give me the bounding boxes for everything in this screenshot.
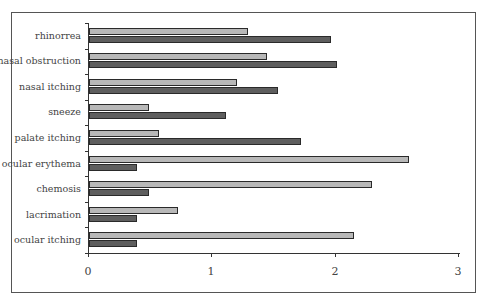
category-label: ocular itching bbox=[14, 234, 81, 245]
category-label: rhinorrea bbox=[35, 29, 81, 40]
category-label: ocular erythema bbox=[2, 157, 81, 168]
bar-series-dark bbox=[89, 61, 337, 68]
category-label: sneeze bbox=[48, 106, 81, 117]
bar-series-dark bbox=[89, 189, 149, 196]
y-tick bbox=[85, 49, 89, 50]
bar-series-light bbox=[89, 207, 178, 214]
bar-series-light bbox=[89, 181, 372, 188]
bar-series-dark bbox=[89, 36, 331, 43]
y-tick bbox=[85, 202, 89, 203]
x-tick-label: 1 bbox=[208, 265, 215, 278]
bar-series-dark bbox=[89, 215, 137, 222]
x-tick bbox=[335, 253, 336, 257]
bar-series-light bbox=[89, 79, 237, 86]
bar-series-light bbox=[89, 156, 409, 163]
x-axis bbox=[88, 253, 460, 254]
y-tick bbox=[85, 176, 89, 177]
y-tick bbox=[85, 151, 89, 152]
x-tick-label: 3 bbox=[455, 265, 462, 278]
y-tick bbox=[85, 23, 89, 24]
category-label: nasal obstruction bbox=[0, 55, 81, 66]
bar-series-light bbox=[89, 28, 248, 35]
bar-series-dark bbox=[89, 112, 226, 119]
x-tick bbox=[458, 253, 459, 257]
category-label: nasal itching bbox=[19, 80, 81, 91]
bar-series-light bbox=[89, 130, 159, 137]
bar-series-light bbox=[89, 53, 267, 60]
category-label: palate itching bbox=[15, 132, 81, 143]
bar-series-dark bbox=[89, 164, 137, 171]
bar-series-dark bbox=[89, 240, 137, 247]
y-tick bbox=[85, 100, 89, 101]
bar-series-light bbox=[89, 104, 149, 111]
category-label: chemosis bbox=[36, 183, 81, 194]
bar-chart: rhinorreanasal obstructionnasal itchings… bbox=[0, 0, 485, 307]
bar-series-light bbox=[89, 232, 354, 239]
y-tick bbox=[85, 125, 89, 126]
bar-series-dark bbox=[89, 87, 278, 94]
x-tick-label: 0 bbox=[85, 265, 92, 278]
y-tick bbox=[85, 253, 89, 254]
x-tick-label: 2 bbox=[332, 265, 339, 278]
category-label: lacrimation bbox=[26, 208, 81, 219]
bar-series-dark bbox=[89, 138, 301, 145]
y-tick bbox=[85, 227, 89, 228]
x-tick bbox=[211, 253, 212, 257]
y-tick bbox=[85, 74, 89, 75]
